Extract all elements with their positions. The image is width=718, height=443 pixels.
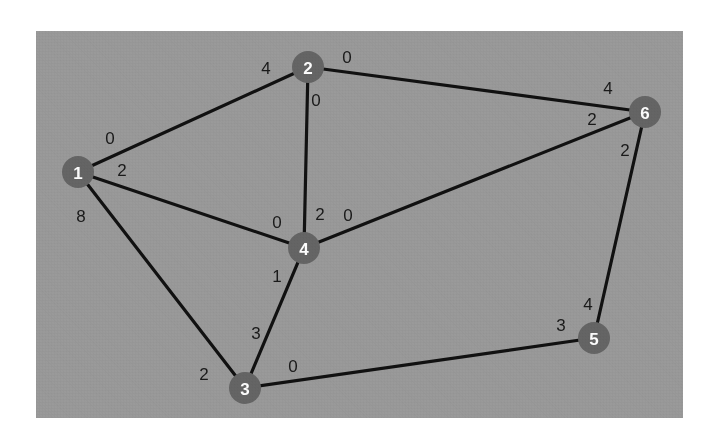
edge-weight-label-5-6-source: 4: [583, 295, 592, 314]
node-label-2: 2: [303, 59, 312, 78]
edge-weight-label-2-4-target: 2: [315, 205, 324, 224]
edge-weight-label-1-4-target: 0: [272, 213, 281, 232]
edge-weight-label-1-4-source: 2: [117, 161, 126, 180]
graph-canvas: 123456 042082020402310342: [0, 0, 718, 443]
edge-weight-label-3-4-source: 3: [251, 324, 260, 343]
node-label-6: 6: [640, 104, 649, 123]
edge-weight-label-5-6-target: 2: [620, 141, 629, 160]
node-label-5: 5: [589, 330, 598, 349]
edge-weight-label-1-3-target: 2: [199, 365, 208, 384]
edge-weight-label-2-4-source: 0: [311, 91, 320, 110]
node-label-4: 4: [299, 240, 309, 259]
graph-node-4: 4: [288, 232, 320, 264]
graph-figure: 123456 042082020402310342: [0, 0, 718, 443]
graph-node-2: 2: [292, 51, 324, 83]
graph-node-6: 6: [629, 96, 661, 128]
edge-weight-label-3-5-target: 3: [556, 316, 565, 335]
graph-node-3: 3: [229, 372, 261, 404]
edge-weight-label-4-6-target: 2: [587, 110, 596, 129]
graph-node-1: 1: [62, 156, 94, 188]
graph-node-5: 5: [578, 322, 610, 354]
edge-weight-label-1-3-source: 8: [76, 207, 85, 226]
edge-weight-label-1-2-source: 0: [105, 129, 114, 148]
edge-weight-label-2-6-target: 4: [603, 79, 612, 98]
edge-weight-label-2-6-source: 0: [342, 48, 351, 67]
edge-weight-label-3-5-source: 0: [288, 357, 297, 376]
edge-weight-label-4-6-source: 0: [343, 206, 352, 225]
node-label-1: 1: [73, 164, 82, 183]
node-label-3: 3: [240, 380, 249, 399]
edge-weight-label-1-2-target: 4: [261, 59, 270, 78]
edge-weight-label-3-4-target: 1: [272, 267, 281, 286]
